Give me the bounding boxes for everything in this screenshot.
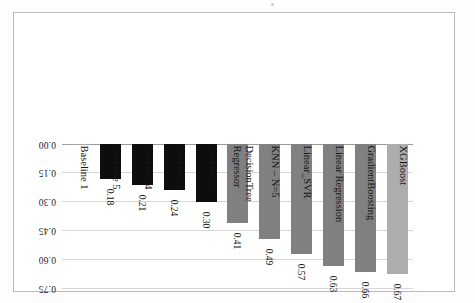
category-labels: XGBoostGradientBoostingLinear Regression…	[62, 144, 413, 289]
category-label-baseline-3: Baseline 3	[174, 146, 186, 190]
category-label-decisiontree-regressor: Regressor	[232, 146, 244, 188]
ytick-label-0.15: 0.15	[39, 168, 56, 178]
category-label-linear-regression: Linear Regression	[333, 146, 345, 223]
category-label-decisiontree-regressor: DecisionTree	[244, 146, 256, 202]
category-label-linear_svr: Linear_SVR	[301, 146, 313, 199]
bar-chart: 0.75 0.60 0.45 0.30 0.15 0.00 0.670.660.…	[13, 12, 455, 292]
category-label-knn-–-n=5: KNN – N=5	[269, 146, 281, 198]
scanned-page: 0.75 0.60 0.45 0.30 0.15 0.00 0.670.660.…	[0, 0, 475, 303]
ytick-label-0.30: 0.30	[39, 197, 56, 207]
ytick-label-0.75: 0.75	[39, 284, 56, 294]
category-slot: Linear Regression	[317, 144, 349, 289]
category-slot: Baseline 2	[190, 144, 222, 289]
category-slot: GradientBoosting	[349, 144, 381, 289]
category-label-xgboost: XGBoost	[397, 146, 409, 186]
ytick-label-0.60: 0.60	[39, 255, 56, 265]
ytick-label-0.45: 0.45	[39, 226, 56, 236]
category-slot: Linear_SVR	[285, 144, 317, 289]
category-slot: XGBoost	[381, 144, 413, 289]
category-slot: Baseline 3	[158, 144, 190, 289]
category-label-gradientboosting: GradientBoosting	[365, 146, 377, 221]
ytick-label-0.00: 0.00	[39, 140, 56, 150]
category-slot: Baseline 1	[62, 144, 94, 289]
category-slot: Baseline 4	[126, 144, 158, 289]
category-label-baseline-2: Baseline 2	[206, 146, 218, 190]
category-label-baseline-5: Baseline 5	[110, 146, 122, 190]
category-slot: KNN – N=5	[253, 144, 285, 289]
scan-artifact-speck	[271, 3, 274, 6]
category-slot: Baseline 5	[94, 144, 126, 289]
category-label-baseline-1: Baseline 1	[78, 146, 90, 190]
plot-stage: 0.75 0.60 0.45 0.30 0.15 0.00 0.670.660.…	[14, 13, 454, 291]
category-slot: DecisionTreeRegressor	[222, 144, 254, 289]
category-label-baseline-4: Baseline 4	[142, 146, 154, 190]
